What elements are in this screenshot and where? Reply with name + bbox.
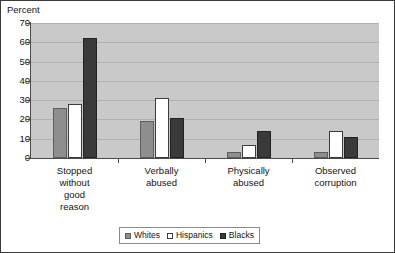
bar-group — [292, 23, 379, 158]
x-axis-category-tick — [118, 158, 119, 163]
bar-group — [118, 23, 205, 158]
category-label-line: Verbally — [118, 165, 205, 177]
legend-swatch-icon — [220, 233, 226, 239]
legend-item-whites[interactable]: Whites — [125, 230, 160, 241]
bar-whites-2 — [227, 152, 241, 158]
legend-label: Blacks — [229, 230, 254, 240]
category-label-line: Physically — [205, 165, 292, 177]
x-axis-category-tick — [205, 158, 206, 163]
y-tick-mark — [26, 42, 30, 43]
y-tick-mark — [26, 100, 30, 101]
chart-legend: WhitesHispanicsBlacks — [119, 227, 260, 244]
bar-group — [31, 23, 118, 158]
x-axis-category-tick — [292, 158, 293, 163]
bar-hispanics-2 — [242, 145, 256, 159]
x-axis-category-label: Observedcorruption — [292, 165, 379, 189]
category-label-line: abused — [205, 177, 292, 189]
y-axis-title: Percent — [7, 4, 40, 15]
bar-blacks-0 — [83, 38, 97, 158]
bar-hispanics-0 — [68, 104, 82, 158]
y-tick-mark — [26, 81, 30, 82]
category-label-line: without — [31, 177, 118, 189]
y-tick-mark — [26, 158, 30, 159]
bar-group — [205, 23, 292, 158]
category-label-line: Stopped — [31, 165, 118, 177]
category-label-line: corruption — [292, 177, 379, 189]
bar-blacks-2 — [257, 131, 271, 158]
category-label-line: reason — [31, 201, 118, 213]
x-axis-category-label: Physicallyabused — [205, 165, 292, 189]
bar-blacks-1 — [170, 118, 184, 159]
y-axis-ticks: 706050403020100 — [1, 23, 30, 158]
bar-whites-3 — [314, 152, 328, 158]
bar-blacks-3 — [344, 137, 358, 158]
bar-hispanics-1 — [155, 98, 169, 158]
legend-swatch-icon — [125, 233, 131, 239]
bar-whites-1 — [140, 121, 154, 158]
category-label-line: abused — [118, 177, 205, 189]
y-tick-mark — [26, 62, 30, 63]
category-label-line: good — [31, 189, 118, 201]
legend-item-blacks[interactable]: Blacks — [220, 230, 254, 241]
bar-hispanics-3 — [329, 131, 343, 158]
x-axis-category-label: Stoppedwithoutgoodreason — [31, 165, 118, 213]
legend-label: Hispanics — [176, 230, 213, 240]
y-tick-mark — [26, 139, 30, 140]
legend-item-hispanics[interactable]: Hispanics — [167, 230, 213, 241]
bar-whites-0 — [53, 108, 67, 158]
bars-layer — [31, 23, 379, 158]
y-tick-mark — [26, 23, 30, 24]
y-tick-mark — [26, 119, 30, 120]
legend-swatch-icon — [167, 233, 173, 239]
chart-figure: Percent 706050403020100 Stoppedwithoutgo… — [0, 0, 395, 253]
x-axis-category-labels: StoppedwithoutgoodreasonVerballyabusedPh… — [31, 165, 379, 217]
category-label-line: Observed — [292, 165, 379, 177]
legend-label: Whites — [134, 230, 160, 240]
x-axis-category-label: Verballyabused — [118, 165, 205, 189]
